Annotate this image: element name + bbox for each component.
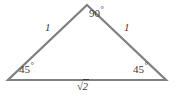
angle-value-apex: 90 xyxy=(89,7,100,19)
degree-symbol-left: ° xyxy=(31,60,35,70)
angle-label-left: 45° xyxy=(19,64,34,75)
figure-canvas: 90° 45° 45° 1 1 √2 xyxy=(0,0,175,95)
radicand-value: 2 xyxy=(83,79,90,92)
angle-value-right: 45 xyxy=(133,63,144,75)
angle-value-left: 45 xyxy=(19,63,30,75)
degree-symbol-right: ° xyxy=(145,60,149,70)
degree-symbol-apex: ° xyxy=(101,4,105,14)
side-label-hypotenuse: √2 xyxy=(77,81,89,92)
angle-label-apex: 90° xyxy=(89,8,104,19)
side-label-right-leg: 1 xyxy=(124,22,130,33)
side-label-left-leg: 1 xyxy=(45,22,51,33)
angle-label-right: 45° xyxy=(133,64,148,75)
